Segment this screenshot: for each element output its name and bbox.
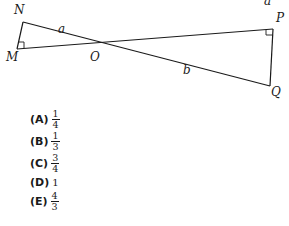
choice-letter: (E): [30, 195, 48, 208]
answer-choices: (A) 1 4 (B) 1 3 (C) 3 4 (D) 1 (E) 4 3: [30, 108, 60, 212]
denominator: 4: [51, 164, 59, 174]
numerator: 4: [51, 191, 59, 202]
triangles-diagram: [0, 0, 289, 110]
fraction: 4 3: [51, 191, 59, 211]
segment-label-a: a: [58, 23, 65, 35]
point-label-m: M: [6, 51, 18, 63]
choice-d[interactable]: (D) 1: [30, 174, 60, 190]
denominator: 3: [51, 202, 59, 212]
choice-letter: (D): [30, 176, 49, 189]
numerator: 3: [51, 153, 59, 164]
right-angle-mark-p: [266, 30, 272, 35]
fraction: 1 3: [51, 131, 59, 151]
point-label-p: P: [276, 12, 284, 24]
choice-b[interactable]: (B) 1 3: [30, 130, 60, 152]
segment-mp: [17, 29, 273, 49]
numerator: 1: [51, 131, 59, 142]
segment-pq: [270, 29, 273, 86]
choice-letter: (C): [30, 157, 48, 170]
denominator: 3: [51, 142, 59, 152]
choice-a[interactable]: (A) 1 4: [30, 108, 60, 130]
point-label-q: Q: [271, 86, 281, 98]
segment-label-b: b: [183, 64, 191, 76]
numerator: 1: [52, 109, 60, 120]
choice-letter: (A): [30, 113, 49, 126]
choice-value: 1: [52, 177, 58, 188]
segment-nm: [17, 22, 23, 49]
fraction: 1 4: [52, 109, 60, 129]
choice-letter: (B): [30, 135, 48, 148]
geometry-figure: N M O P Q a b a: [0, 0, 289, 110]
fraction: 3 4: [51, 153, 59, 173]
choice-c[interactable]: (C) 3 4: [30, 152, 60, 174]
point-label-n: N: [14, 4, 25, 16]
denominator: 4: [52, 120, 60, 130]
choice-e[interactable]: (E) 4 3: [30, 190, 60, 212]
clipped-label: a: [264, 0, 271, 8]
point-label-o: O: [90, 51, 100, 63]
right-angle-mark-m: [19, 42, 24, 48]
